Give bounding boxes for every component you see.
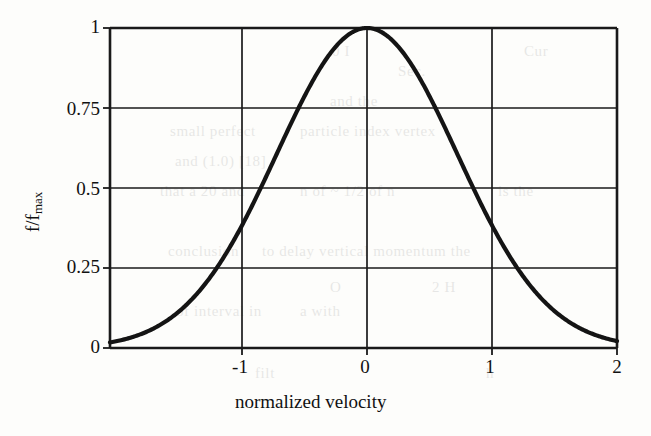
y-tick-label-0: 0	[42, 336, 100, 358]
y-axis-title-main: f/f	[22, 214, 43, 232]
x-axis-title: normalized velocity	[235, 391, 386, 413]
y-tick-label-025: 0.25	[42, 256, 100, 278]
x-tick-label-0: 0	[335, 356, 395, 378]
gaussian-curve	[110, 28, 617, 342]
x-tick-label-neg1: -1	[210, 356, 270, 378]
y-tick-label-075: 0.75	[42, 98, 100, 120]
chart-plot-area	[0, 0, 651, 436]
x-tick-label-2: 2	[587, 356, 647, 378]
figure-root: Sec.and thesmall perfectparticle index v…	[0, 0, 651, 436]
x-tick-label-1: 1	[460, 356, 520, 378]
y-tick-label-1: 1	[42, 16, 100, 38]
y-axis-title: f/fmax	[22, 192, 44, 232]
y-tick-label-05: 0.5	[42, 178, 100, 200]
tick-marks	[103, 28, 617, 355]
y-axis-title-subscript: max	[30, 192, 45, 214]
